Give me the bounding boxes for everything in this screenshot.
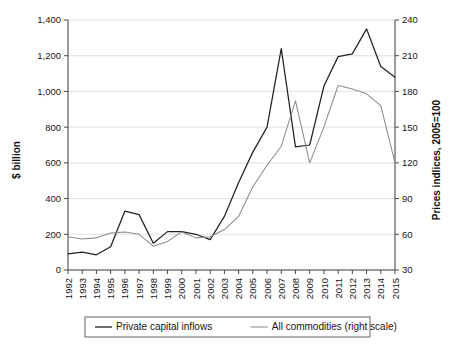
series-layer bbox=[68, 29, 395, 255]
x-axis-tick-label: 2013 bbox=[361, 278, 372, 299]
x-axis-tick-label: 2001 bbox=[191, 278, 202, 299]
x-axis-tick-label: 2010 bbox=[319, 278, 330, 299]
y-axis-left-tick-label: 1,000 bbox=[37, 86, 61, 97]
x-axis-tick-label: 2008 bbox=[290, 278, 301, 299]
x-axis-tick-label: 2014 bbox=[375, 278, 386, 299]
x-axis-tick-label: 2002 bbox=[205, 278, 216, 299]
y-axis-right-tick-label: 30 bbox=[402, 264, 413, 275]
x-axis-tick-label: 2012 bbox=[347, 278, 358, 299]
x-axis-tick-label: 2015 bbox=[390, 278, 401, 299]
y-axis-right-tick-label: 120 bbox=[402, 157, 418, 168]
y-axis-left-tick-label: 1,400 bbox=[37, 14, 61, 25]
y-axis-left-title: $ billion bbox=[11, 141, 22, 179]
x-axis-tick-label: 1993 bbox=[77, 278, 88, 299]
y-axis-left-tick-label: 600 bbox=[45, 157, 61, 168]
x-axis-tick-label: 1997 bbox=[134, 278, 145, 299]
y-axis-left: 02004006008001,0001,2001,400 bbox=[37, 14, 68, 275]
legend-label-1: All commodities (right scale) bbox=[272, 321, 397, 332]
y-axis-left-tick-label: 1,200 bbox=[37, 50, 61, 61]
y-axis-right: 306090120150180210240 bbox=[395, 14, 418, 275]
axis-titles: $ billion Prices indlices, 2005=100 bbox=[11, 99, 442, 220]
x-axis-tick-label: 2011 bbox=[333, 278, 344, 298]
y-axis-right-tick-label: 90 bbox=[402, 193, 413, 204]
y-axis-left-tick-label: 200 bbox=[45, 229, 61, 240]
y-axis-right-tick-label: 240 bbox=[402, 14, 418, 25]
x-axis-tick-label: 2003 bbox=[219, 278, 230, 299]
line-chart: 02004006008001,0001,2001,400 30609012015… bbox=[0, 0, 452, 348]
series-line-all-commodities bbox=[68, 85, 395, 246]
y-axis-right-tick-label: 150 bbox=[402, 122, 418, 133]
y-axis-right-tick-label: 210 bbox=[402, 50, 418, 61]
x-axis-tick-label: 2007 bbox=[276, 278, 287, 299]
chart-container: 02004006008001,0001,2001,400 30609012015… bbox=[0, 0, 452, 348]
x-axis-tick-label: 1996 bbox=[119, 278, 130, 299]
chart-legend: Private capital inflowsAll commodities (… bbox=[85, 317, 397, 337]
x-axis-tick-label: 2004 bbox=[233, 278, 244, 299]
x-axis-tick-label: 1995 bbox=[105, 278, 116, 299]
y-axis-right-tick-label: 60 bbox=[402, 229, 413, 240]
x-axis-tick-label: 2005 bbox=[247, 278, 258, 299]
y-axis-right-title: Prices indlices, 2005=100 bbox=[431, 99, 442, 220]
x-axis-tick-label: 2006 bbox=[262, 278, 273, 299]
series-line-private-capital-inflows bbox=[68, 29, 395, 255]
x-axis: 1992199319941995199619971998199920002001… bbox=[63, 270, 401, 299]
x-axis-tick-label: 1992 bbox=[63, 278, 74, 299]
y-axis-left-tick-label: 0 bbox=[56, 264, 61, 275]
x-axis-tick-label: 2009 bbox=[304, 278, 315, 299]
y-axis-left-tick-label: 400 bbox=[45, 193, 61, 204]
x-axis-tick-label: 1994 bbox=[91, 278, 102, 299]
y-axis-left-tick-label: 800 bbox=[45, 122, 61, 133]
legend-label-0: Private capital inflows bbox=[116, 321, 212, 332]
x-axis-tick-label: 1999 bbox=[162, 278, 173, 299]
x-axis-tick-label: 1998 bbox=[148, 278, 159, 299]
x-axis-tick-label: 2000 bbox=[176, 278, 187, 299]
y-axis-right-tick-label: 180 bbox=[402, 86, 418, 97]
